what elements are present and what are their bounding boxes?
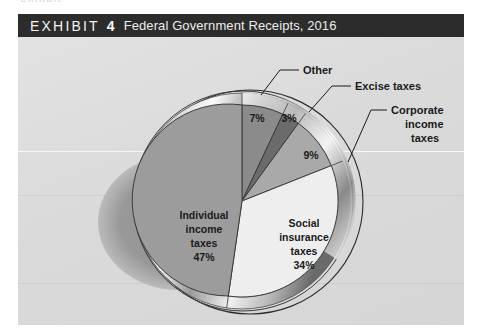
callout-corporate-line2-wrap: income — [405, 118, 444, 130]
exhibit-header-bar: EXHIBIT 4 Federal Government Receipts, 2… — [18, 14, 464, 37]
exhibit-page: exhibit EXHIBIT 4 Federal Government Rec… — [0, 0, 484, 332]
page-top-text-sliver: exhibit — [18, 0, 464, 13]
callout-corporate-income-taxes: Corporate — [391, 104, 444, 116]
label-individual-percent: 47% — [193, 251, 215, 263]
exhibit-title: Federal Government Receipts, 2016 — [124, 18, 337, 33]
label-individual-line3: taxes — [191, 237, 218, 249]
exhibit-number: 4 — [107, 18, 115, 34]
percent-label-other: 7% — [249, 112, 265, 124]
label-social-line3: taxes — [291, 245, 318, 257]
percent-label-corporate: 9% — [303, 149, 319, 161]
label-social-line2: insurance — [279, 231, 329, 243]
callout-corporate-line1: Corporate — [391, 104, 444, 116]
callout-corporate-line2: income — [405, 118, 444, 130]
chart-panel: Other Excise taxes Corporate income taxe… — [18, 37, 464, 325]
pie-chart: Other Excise taxes Corporate income taxe… — [18, 37, 464, 325]
label-social-line1: Social — [289, 217, 320, 229]
label-individual-line2: income — [186, 223, 223, 235]
callout-other: Other — [303, 64, 333, 76]
top-sliver-text: exhibit — [20, 0, 62, 5]
exhibit-label: EXHIBIT — [30, 18, 100, 34]
percent-label-excise: 3% — [281, 112, 297, 124]
callout-excise-taxes: Excise taxes — [355, 80, 421, 92]
label-individual-line1: Individual — [179, 209, 228, 221]
callout-corporate-line3-wrap: taxes — [411, 132, 439, 144]
label-social-percent: 34% — [293, 259, 315, 271]
callout-corporate-line3: taxes — [411, 132, 439, 144]
